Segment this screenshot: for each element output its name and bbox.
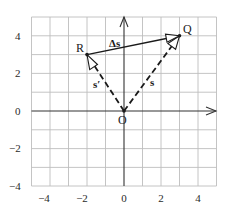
y-tick-0: 0	[15, 105, 21, 117]
point-Q	[178, 34, 182, 38]
x-tick-0: 0	[121, 192, 127, 204]
y-tick-neg2: −2	[9, 142, 21, 154]
point-R	[85, 53, 89, 57]
label-delta-s: Δs	[109, 37, 121, 49]
label-O: O	[118, 113, 127, 127]
vector-diagram: 4 2 0 −2 −4 −4 −2 0 2 4 O R Q Δs s′ s	[0, 0, 226, 211]
x-tick-labels: −4 −2 0 2 4	[38, 192, 201, 204]
label-R: R	[76, 41, 84, 55]
axes	[32, 17, 217, 186]
label-s: s	[150, 76, 155, 88]
y-tick-labels: 4 2 0 −2 −4	[9, 30, 21, 192]
x-tick-neg2: −2	[76, 192, 88, 204]
x-tick-4: 4	[195, 192, 201, 204]
label-s-prime: s′	[93, 78, 100, 90]
x-tick-neg4: −4	[38, 192, 50, 204]
label-Q: Q	[183, 22, 192, 36]
y-tick-2: 2	[15, 67, 21, 79]
vector-delta-s	[87, 34, 180, 54]
y-tick-4: 4	[15, 30, 21, 42]
y-tick-neg4: −4	[9, 180, 21, 192]
x-tick-2: 2	[158, 192, 164, 204]
